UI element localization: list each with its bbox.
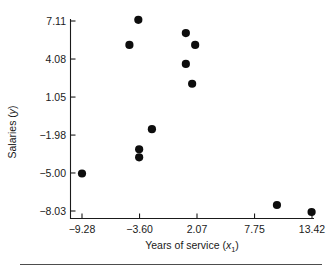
y-axis-title-text: Salaries [6, 121, 18, 159]
x-tick-label: 2.07 [187, 223, 208, 235]
scatter-plot-svg: Salaries (y) −8.03−5.00−1.981.054.087.11… [0, 0, 336, 271]
svg-text:Years of service (x1): Years of service (x1) [145, 239, 239, 254]
data-point [307, 208, 315, 216]
data-point [135, 145, 143, 153]
y-tick-label: −5.00 [39, 167, 66, 179]
y-tick-label: −8.03 [39, 205, 66, 217]
data-point [78, 169, 86, 177]
x-tick-label: 7.75 [244, 223, 265, 235]
y-tick-label: 4.08 [46, 53, 67, 65]
x-axis-title-text: Years of service [145, 239, 219, 251]
data-point [134, 16, 142, 24]
x-tick-label: −9.28 [69, 223, 96, 235]
data-point [182, 29, 190, 37]
data-point [188, 80, 196, 88]
data-point [191, 41, 199, 49]
y-tick-label: −1.98 [39, 129, 66, 141]
data-point [273, 201, 281, 209]
x-tick-label: −3.60 [126, 223, 153, 235]
data-point [182, 60, 190, 68]
x-axis-title: Years of service (x1) [145, 239, 239, 254]
x-axis-ticks: −9.28−3.602.077.7513.42 [69, 214, 326, 236]
y-tick-label: 1.05 [46, 91, 67, 103]
svg-text:Salaries (y): Salaries (y) [6, 105, 18, 158]
data-point [125, 41, 133, 49]
y-tick-label: 7.11 [46, 15, 66, 27]
data-points-group [78, 16, 316, 216]
chart-figure: Salaries (y) −8.03−5.00−1.981.054.087.11… [0, 0, 336, 271]
y-axis-title: Salaries (y) [6, 105, 18, 158]
data-point [135, 153, 143, 161]
data-point [148, 125, 156, 133]
x-tick-label: 13.42 [299, 223, 325, 235]
